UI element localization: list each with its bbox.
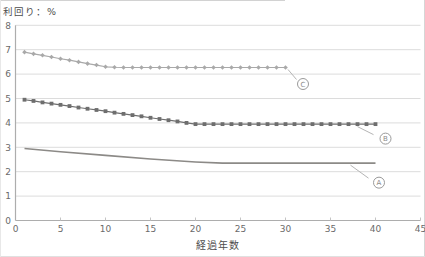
x-tick-label-10: 10 <box>100 224 112 234</box>
marker-square <box>50 102 54 106</box>
marker-square <box>329 122 333 126</box>
callout-A-letter: A <box>377 179 382 187</box>
series-C <box>22 50 288 70</box>
y-tick-label-4: 4 <box>5 118 11 128</box>
series-C-markers <box>22 50 288 70</box>
marker-square <box>149 116 153 120</box>
y-tick-label-5: 5 <box>5 94 11 104</box>
marker-square <box>77 106 81 110</box>
marker-diamond <box>211 65 216 70</box>
marker-square <box>185 121 189 125</box>
marker-square <box>41 101 45 105</box>
callout-A: A <box>351 165 385 188</box>
marker-square <box>167 118 171 122</box>
marker-square <box>293 122 297 126</box>
marker-diamond <box>184 65 189 70</box>
marker-diamond <box>283 65 288 70</box>
marker-square <box>302 122 306 126</box>
marker-square <box>221 122 225 126</box>
marker-square <box>95 108 99 112</box>
marker-square <box>212 122 216 126</box>
marker-square <box>266 122 270 126</box>
marker-square <box>374 122 378 126</box>
marker-square <box>356 122 360 126</box>
marker-diamond <box>247 65 252 70</box>
series-A <box>25 149 376 164</box>
marker-diamond <box>220 65 225 70</box>
series-B <box>23 98 378 126</box>
marker-square <box>365 122 369 126</box>
callout-C-letter: C <box>301 81 306 89</box>
x-tick-label-40: 40 <box>370 224 382 234</box>
x-tick-label-15: 15 <box>145 224 156 234</box>
x-tick-label-35: 35 <box>325 224 336 234</box>
marker-diamond <box>49 55 54 60</box>
marker-diamond <box>67 58 72 63</box>
y-tick-label-0: 0 <box>5 216 11 226</box>
x-tick-label-5: 5 <box>58 224 64 234</box>
marker-diamond <box>139 65 144 70</box>
marker-square <box>176 120 180 124</box>
callout-C: C <box>288 70 309 90</box>
marker-diamond <box>130 65 135 70</box>
marker-diamond <box>40 53 45 58</box>
marker-square <box>140 114 144 118</box>
marker-square <box>86 107 90 111</box>
marker-diamond <box>229 65 234 70</box>
marker-diamond <box>256 65 261 70</box>
x-tick-label-25: 25 <box>235 224 246 234</box>
marker-square <box>275 122 279 126</box>
tick-labels: 012345678051015202530354045 <box>5 21 425 234</box>
marker-square <box>158 117 162 121</box>
marker-diamond <box>22 50 27 55</box>
marker-square <box>122 112 126 116</box>
y-tick-label-3: 3 <box>5 143 11 153</box>
marker-diamond <box>58 56 63 61</box>
marker-diamond <box>31 52 36 57</box>
marker-square <box>230 122 234 126</box>
marker-diamond <box>112 65 117 70</box>
marker-diamond <box>274 65 279 70</box>
page-border-top <box>0 0 285 1</box>
marker-square <box>32 99 36 103</box>
series-B-line <box>25 100 376 124</box>
marker-diamond <box>193 65 198 70</box>
marker-square <box>131 113 135 117</box>
marker-diamond <box>76 60 81 65</box>
chart-page: 利回り：% 012345678051015202530354045ABC 経過年… <box>0 0 425 257</box>
line-chart: 012345678051015202530354045ABC <box>0 18 425 243</box>
marker-square <box>59 103 63 107</box>
marker-square <box>104 109 108 113</box>
y-tick-label-1: 1 <box>5 191 11 201</box>
marker-square <box>347 122 351 126</box>
marker-diamond <box>166 65 171 70</box>
series-A-line <box>25 149 376 164</box>
gridlines <box>16 25 421 196</box>
y-tick-label-8: 8 <box>5 21 11 31</box>
marker-diamond <box>94 63 99 68</box>
marker-square <box>311 122 315 126</box>
marker-diamond <box>85 61 90 66</box>
y-tick-label-7: 7 <box>5 45 11 55</box>
marker-square <box>248 122 252 126</box>
series-C-line <box>25 52 286 67</box>
callout-B: B <box>358 127 392 144</box>
marker-square <box>239 122 243 126</box>
callout-B-letter: B <box>383 135 388 143</box>
marker-square <box>284 122 288 126</box>
marker-diamond <box>175 65 180 70</box>
marker-diamond <box>121 65 126 70</box>
marker-diamond <box>265 65 270 70</box>
marker-square <box>338 122 342 126</box>
x-tick-label-0: 0 <box>13 224 19 234</box>
marker-square <box>113 111 117 115</box>
marker-diamond <box>148 65 153 70</box>
callout-B-leader <box>358 127 374 135</box>
marker-diamond <box>103 64 108 69</box>
y-axis-title: 利回り：% <box>3 4 57 18</box>
marker-square <box>320 122 324 126</box>
marker-diamond <box>202 65 207 70</box>
y-tick-label-6: 6 <box>5 69 11 79</box>
marker-square <box>68 104 72 108</box>
marker-square <box>257 122 261 126</box>
